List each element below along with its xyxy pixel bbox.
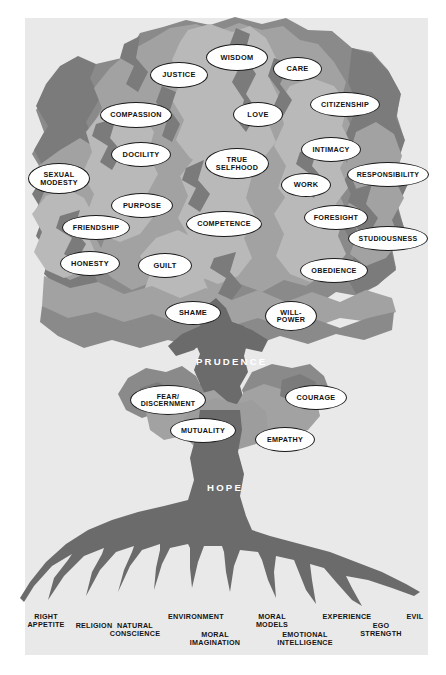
root-label-natural-conscience: NATURAL CONSCIENCE (102, 622, 168, 638)
canopy-label-honesty[interactable]: HONESTY (60, 251, 120, 276)
root-label-moral-models: MORAL MODELS (247, 613, 297, 629)
root-label-evil: EVIL (400, 613, 430, 621)
figure-canvas: WISDOM JUSTICE CARE COMPASSION LOVE CITI… (0, 0, 446, 675)
canopy-label-justice[interactable]: JUSTICE (150, 62, 208, 88)
root-label-environment: ENVIRONMENT (161, 613, 231, 621)
canopy-label-docility[interactable]: DOCILITY (111, 142, 171, 167)
root-label-right-appetite: RIGHT APPETITE (21, 613, 71, 629)
canopy-label-competence[interactable]: COMPETENCE (186, 211, 262, 237)
root-label-ego-strength: EGO STRENGTH (354, 622, 408, 638)
canopy-label-studiousness[interactable]: STUDIOUSNESS (348, 226, 428, 251)
branch-label-empathy[interactable]: EMPATHY (255, 427, 315, 452)
branch-label-mutuality[interactable]: MUTUALITY (170, 418, 236, 443)
root-label-moral-imagination: MORAL IMAGINATION (179, 631, 251, 647)
trunk-label-prudence: PRUDENCE (196, 356, 267, 367)
canopy-label-shame[interactable]: SHAME (165, 301, 221, 325)
canopy-label-obedience[interactable]: OBEDIENCE (300, 258, 368, 283)
canopy-label-true-selfhood[interactable]: TRUE SELFHOOD (205, 148, 269, 179)
canopy-label-compassion[interactable]: COMPASSION (100, 102, 172, 128)
canopy-label-intimacy[interactable]: INTIMACY (301, 137, 361, 162)
canopy-label-guilt[interactable]: GUILT (138, 253, 192, 278)
trunk-label-hope: HOPE (207, 482, 243, 493)
root-label-emotional-intelligence: EMOTIONAL INTELLIGENCE (269, 631, 341, 647)
canopy-label-friendship[interactable]: FRIENDSHIP (62, 215, 130, 240)
canopy-label-love[interactable]: LOVE (233, 102, 283, 127)
branch-label-fear-discernment[interactable]: FEAR/ DISCERNMENT (130, 385, 206, 415)
canopy-label-responsibility[interactable]: RESPONSIBILITY (347, 162, 429, 187)
canopy-label-work[interactable]: WORK (281, 173, 331, 197)
canopy-label-will-power[interactable]: WILL- POWER (265, 301, 317, 331)
root-label-experience: EXPERIENCE (315, 613, 379, 621)
canopy-label-foresight[interactable]: FORESIGHT (304, 205, 368, 230)
canopy-label-sexual-modesty[interactable]: SEXUAL MODESTY (28, 163, 90, 194)
canopy-label-care[interactable]: CARE (273, 57, 322, 81)
canopy-label-purpose[interactable]: PURPOSE (111, 193, 173, 218)
canopy-label-wisdom[interactable]: WISDOM (206, 44, 268, 71)
canopy-label-citizenship[interactable]: CITIZENSHIP (310, 92, 380, 117)
branch-label-courage[interactable]: COURAGE (285, 385, 347, 410)
